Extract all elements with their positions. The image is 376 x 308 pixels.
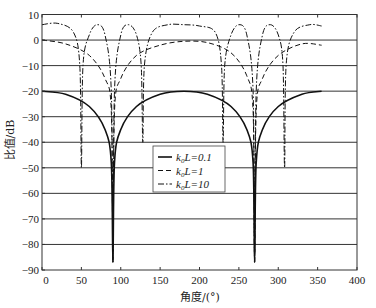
y-tick-label: −60 [22,187,40,199]
x-tick-label: 50 [76,274,88,286]
x-tick-label: 200 [191,274,208,286]
line-chart: 050100150200250300350400 100−10−20−30−40… [0,0,376,308]
y-tick-label: −80 [22,238,40,250]
x-tick-label: 0 [43,274,49,286]
y-axis-title: 比值/dB [4,120,17,161]
y-tick-label: 10 [28,9,40,21]
grid-lines [42,40,357,244]
y-tick-label: −10 [22,60,40,72]
legend: k0L=0.1k0L=1k0L=10 [153,146,225,192]
x-axis-title: 角度/(°) [180,290,220,304]
y-tick-label: 0 [34,34,40,46]
x-tick-label: 150 [152,274,169,286]
x-tick-label: 100 [113,274,130,286]
x-tick-label: 250 [231,274,248,286]
y-tick-label: −50 [22,162,40,174]
x-tick-label: 400 [349,274,366,286]
y-tick-label: −30 [22,111,40,123]
y-tick-label: −70 [22,213,40,225]
y-tick-label: −90 [22,264,40,276]
y-tick-label: −40 [22,136,40,148]
y-tick-label: −20 [22,85,40,97]
x-tick-label: 300 [270,274,287,286]
legend-label: k0L=1 [176,165,203,179]
x-tick-label: 350 [309,274,326,286]
